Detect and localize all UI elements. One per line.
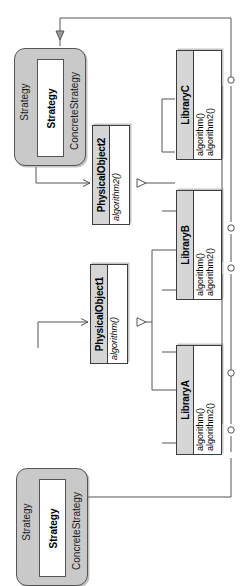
class-library-a[interactable]: LibraryA algorithm() algorithm2() [176,345,222,455]
class-physical-object-1[interactable]: PhysicalObject1 algorithm() [90,264,128,364]
class-title-library-b: LibraryB [177,191,194,299]
package-subtitle-top: ConcreteStrategy [69,61,80,161]
connector-gen-libs-to-po1 [137,250,176,390]
package-name-top: Strategy [19,49,30,155]
inner-class-strategy-top[interactable]: Strategy [37,59,64,157]
class-title-library-a: LibraryA [177,346,194,454]
class-title-physical-object-2: PhysicalObject2 [93,126,110,224]
class-library-b[interactable]: LibraryB algorithm() algorithm2() [176,190,222,300]
connector-left-stubs [162,99,176,443]
inner-class-strategy-bottom[interactable]: Strategy [39,479,66,577]
class-title-physical-object-1: PhysicalObject1 [91,265,108,363]
package-strategy-bottom[interactable]: Strategy Strategy ConcreteStrategy [16,468,88,586]
inner-class-label-bottom: Strategy [47,508,58,548]
connector-assoc-strategy-top-to-po2 [36,167,90,183]
connector-assoc-strategy-bottom-to-po1 [38,322,88,348]
class-library-c[interactable]: LibraryC algorithm() algorithm2() [176,50,222,160]
package-strategy-top[interactable]: Strategy Strategy ConcreteStrategy [14,48,86,166]
inner-class-label-top: Strategy [45,88,56,128]
class-operations-physical-object-1: algorithm() [108,265,119,363]
class-physical-object-2[interactable]: PhysicalObject2 algorithm2() [92,125,130,225]
package-subtitle-bottom: ConcreteStrategy [71,481,82,581]
package-name-bottom: Strategy [21,469,32,575]
class-operations-physical-object-2: algorithm2() [110,126,121,224]
class-title-library-c: LibraryC [177,51,194,159]
class-operations-library-b: algorithm() algorithm2() [194,191,215,299]
class-operations-library-c: algorithm() algorithm2() [194,51,215,159]
class-operations-library-a: algorithm() algorithm2() [194,346,215,454]
